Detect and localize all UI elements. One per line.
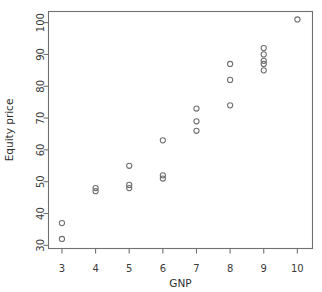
y-tick-label: 30 <box>35 239 46 252</box>
x-axis-title: GNP <box>169 277 191 289</box>
y-tick-label: 70 <box>35 112 46 125</box>
plot-frame-rect <box>49 12 313 249</box>
data-point <box>93 189 98 194</box>
x-tick-label: 5 <box>126 263 132 274</box>
y-tick-label: 60 <box>35 144 46 157</box>
data-point <box>194 106 199 111</box>
data-point <box>194 119 199 124</box>
data-point <box>228 61 233 66</box>
data-point <box>160 138 165 143</box>
plot-frame <box>49 12 313 249</box>
data-point <box>59 220 64 225</box>
data-point <box>160 176 165 181</box>
data-point <box>261 52 266 57</box>
data-point <box>228 77 233 82</box>
data-point <box>194 128 199 133</box>
x-tick-label: 10 <box>291 263 304 274</box>
x-tick-label: 4 <box>92 263 98 274</box>
data-point <box>261 68 266 73</box>
x-axis: 345678910 <box>59 249 304 274</box>
x-tick-label: 9 <box>261 263 267 274</box>
data-point <box>261 45 266 50</box>
y-tick-label: 90 <box>35 48 46 61</box>
data-points-layer <box>59 17 300 242</box>
y-tick-label: 40 <box>35 207 46 220</box>
x-tick-label: 3 <box>59 263 65 274</box>
data-point <box>59 236 64 241</box>
y-axis: 30405060708090100 <box>35 13 49 252</box>
y-tick-label: 80 <box>35 80 46 93</box>
x-tick-label: 7 <box>193 263 199 274</box>
data-point <box>127 163 132 168</box>
x-tick-label: 8 <box>227 263 233 274</box>
scatter-plot-canvas: 30405060708090100 345678910 GNP Equity p… <box>0 0 322 292</box>
y-tick-label: 50 <box>35 175 46 188</box>
y-tick-label: 100 <box>35 13 46 32</box>
scatter-plot-figure: 30405060708090100 345678910 GNP Equity p… <box>0 0 322 292</box>
data-point <box>228 103 233 108</box>
y-axis-title: Equity price <box>3 99 15 162</box>
data-point <box>261 61 266 66</box>
data-point <box>295 17 300 22</box>
data-point <box>127 185 132 190</box>
x-tick-label: 6 <box>160 263 166 274</box>
